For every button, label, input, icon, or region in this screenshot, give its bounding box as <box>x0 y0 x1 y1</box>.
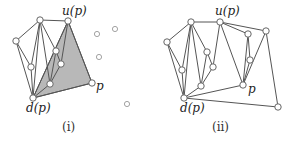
vertex <box>188 19 194 25</box>
vertex <box>47 81 53 87</box>
vertex <box>240 82 246 88</box>
unprocessed-points <box>94 26 129 106</box>
edge <box>220 22 243 85</box>
diagram-canvas: u(p) d(p) p (i) u(p) d(p) p (ii) <box>0 0 293 141</box>
vertex <box>53 48 59 54</box>
caption-i: (i) <box>62 120 75 134</box>
point <box>94 31 99 36</box>
edge <box>40 20 68 21</box>
panel-ii: u(p) d(p) p (ii) <box>164 4 281 134</box>
vertex <box>245 31 251 37</box>
panel-i: u(p) d(p) p (i) <box>13 4 130 134</box>
vertex <box>37 17 43 23</box>
edge <box>184 22 191 98</box>
point <box>112 26 117 31</box>
point <box>124 101 129 106</box>
label-p: p <box>248 82 256 96</box>
vertex <box>210 64 216 70</box>
edge <box>220 22 266 31</box>
point <box>96 54 101 59</box>
vertex <box>65 18 71 24</box>
triangulation-vertices <box>164 19 281 110</box>
edge <box>266 31 278 107</box>
edge <box>16 41 31 67</box>
vertex <box>89 80 95 86</box>
edge <box>182 22 191 70</box>
edge <box>243 31 266 85</box>
caption-ii: (ii) <box>212 120 229 134</box>
vertex <box>247 57 253 63</box>
vertex <box>198 83 204 89</box>
vertex <box>13 38 19 44</box>
label-d-of-p: d(p) <box>26 101 51 115</box>
label-u-of-p: u(p) <box>62 4 87 18</box>
vertex <box>179 67 185 73</box>
edge <box>248 34 250 60</box>
vertex <box>164 39 170 45</box>
vertex <box>204 49 210 55</box>
vertex <box>217 19 223 25</box>
label-p: p <box>96 79 104 93</box>
vertex <box>275 104 281 110</box>
triangulation-edges <box>167 22 278 107</box>
vertex <box>263 28 269 34</box>
label-d-of-p: d(p) <box>180 101 205 115</box>
vertex <box>28 64 34 70</box>
edge <box>213 22 220 67</box>
label-u-of-p: u(p) <box>215 4 240 18</box>
vertex <box>58 61 64 67</box>
